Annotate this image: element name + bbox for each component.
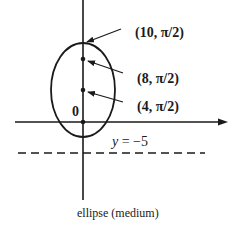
leader-arrow-8-pi-2 xyxy=(88,61,123,73)
point-marker-8-pi-2 xyxy=(81,57,86,62)
point-label-4-pi-2: (4, π/2) xyxy=(137,100,179,114)
diagram-caption: ellipse (medium) xyxy=(77,207,159,219)
point-marker-4-pi-2 xyxy=(81,88,86,93)
leader-arrow-10-pi-2 xyxy=(87,29,121,42)
point-label-8-pi-2: (8, π/2) xyxy=(137,72,179,86)
ellipse-diagram xyxy=(0,0,247,229)
origin-label: 0 xyxy=(72,105,79,119)
directrix-label: y = −5 xyxy=(112,135,148,149)
origin-marker xyxy=(81,120,86,125)
leader-arrow-4-pi-2 xyxy=(88,92,123,102)
x-axis-arrowhead xyxy=(218,119,228,126)
directrix-label-value: = −5 xyxy=(118,134,148,149)
point-label-10-pi-2: (10, π/2) xyxy=(135,26,184,40)
